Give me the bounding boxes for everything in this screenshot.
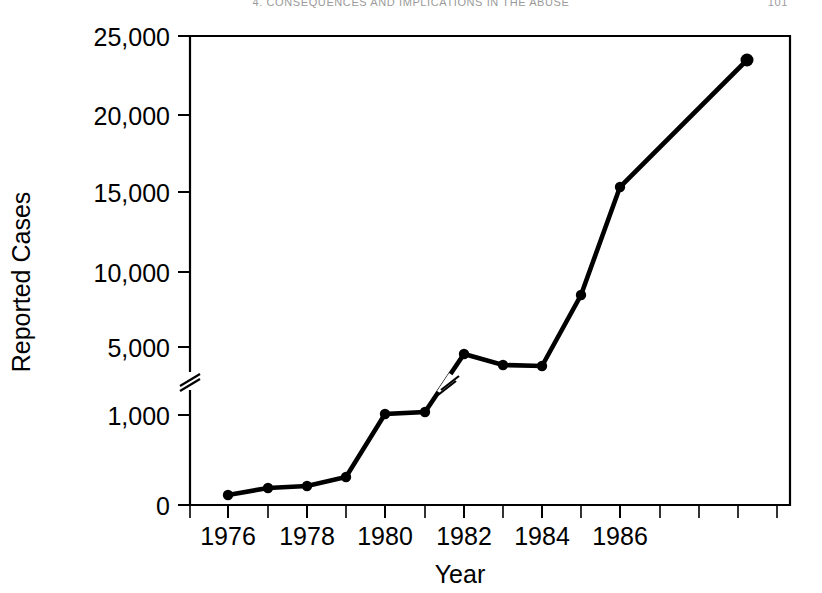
data-point-1982 [459,349,469,359]
y-label-10000: 10,000 [94,259,170,287]
x-axis-ticks [190,505,777,518]
series-break-mark [438,375,459,395]
figure-container: 4. CONSEQUENCES AND IMPLICATIONS IN THE … [0,0,822,593]
data-point-1979 [341,472,351,482]
y-axis-break-mark [180,372,200,391]
data-point-1986 [615,182,625,192]
data-point-1977 [263,483,273,493]
series-reported-cases [228,60,747,495]
x-label-1986: 1986 [592,522,648,550]
y-label-20000: 20,000 [94,102,170,130]
data-point-1985 [576,290,586,300]
y-label-25000: 25,000 [94,23,170,51]
y-label-15000: 15,000 [94,179,170,207]
data-point-1976 [223,490,233,500]
x-axis-title: Year [435,560,486,588]
y-tick-labels: 25,000 20,000 15,000 10,000 5,000 1,000 … [94,23,170,520]
data-point-1984 [537,361,547,371]
line-chart: 25,000 20,000 15,000 10,000 5,000 1,000 … [0,0,822,593]
data-point-markers [223,54,754,501]
y-axis-ticks [178,36,190,505]
data-point-1981 [420,407,430,417]
x-tick-labels: 1976 1978 1980 1982 1984 1986 [200,522,648,550]
y-label-0: 0 [156,492,170,520]
x-label-1984: 1984 [514,522,570,550]
data-series [223,54,754,501]
y-axis-title: Reported Cases [7,192,35,373]
data-point-1983 [498,360,508,370]
data-point-1987 [741,54,754,67]
x-label-1980: 1980 [357,522,413,550]
y-label-1000: 1,000 [107,402,170,430]
x-label-1982: 1982 [436,522,492,550]
y-label-5000: 5,000 [107,334,170,362]
x-label-1978: 1978 [279,522,335,550]
x-label-1976: 1976 [200,522,256,550]
data-point-1978 [302,481,312,491]
data-point-1980 [380,409,390,419]
